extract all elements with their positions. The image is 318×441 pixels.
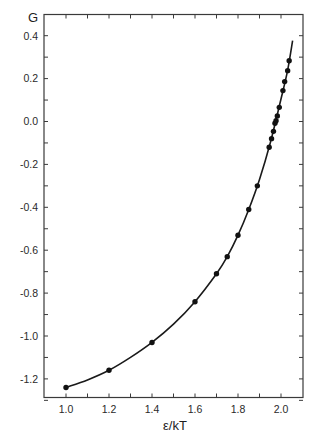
x-tick-label: 1.0 (59, 403, 74, 415)
data-point (277, 105, 282, 110)
y-tick-label: -0.8 (20, 287, 38, 299)
y-axis-title: G (28, 10, 38, 25)
y-tick-label: 0.2 (23, 72, 38, 84)
x-tick-label: 1.8 (231, 403, 246, 415)
data-point (280, 88, 285, 93)
data-point (225, 254, 230, 259)
data-point (273, 118, 278, 123)
data-point (149, 340, 154, 345)
data-point (269, 136, 274, 141)
data-point (271, 129, 276, 134)
x-tick-label: 2.0 (274, 403, 289, 415)
y-tick-label: 0.4 (23, 30, 38, 42)
y-tick-label: -1.2 (20, 373, 38, 385)
x-axis-title: ε/kT (163, 418, 187, 433)
data-point (192, 299, 197, 304)
data-point (285, 68, 290, 73)
data-point (63, 385, 68, 390)
x-tick-label: 1.4 (145, 403, 160, 415)
data-point (266, 145, 271, 150)
data-point (246, 207, 251, 212)
chart: 1.01.21.41.61.82.00.40.20.0-0.2-0.4-0.6-… (0, 0, 318, 441)
data-point (275, 113, 280, 118)
data-point (106, 368, 111, 373)
data-point (282, 79, 287, 84)
data-markers (63, 58, 292, 390)
y-tick-label: -1.0 (20, 330, 38, 342)
x-tick-label: 1.2 (102, 403, 117, 415)
y-tick-label: -0.2 (20, 158, 38, 170)
y-tick-label: -0.4 (20, 201, 38, 213)
data-point (286, 58, 291, 63)
axis-ticks (44, 15, 303, 401)
plot-frame (44, 15, 303, 398)
x-tick-label: 1.6 (188, 403, 203, 415)
data-point (214, 271, 219, 276)
y-tick-label: -0.6 (20, 244, 38, 256)
data-point (235, 232, 240, 237)
axis-tick-labels: 1.01.21.41.61.82.00.40.20.0-0.2-0.4-0.6-… (20, 30, 289, 416)
data-point (255, 183, 260, 188)
fitted-curve (66, 41, 293, 388)
y-tick-label: 0.0 (23, 115, 38, 127)
